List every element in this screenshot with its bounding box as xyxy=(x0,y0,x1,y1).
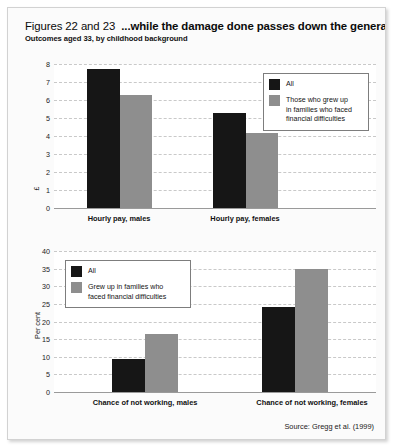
lower-y-ticks: 40 35 30 25 20 15 10 5 0 xyxy=(28,244,50,392)
chart-hourly-pay: £ 8 7 6 5 4 3 2 1 0 xyxy=(8,56,386,236)
upper-legend-item-faced: Those who grew up in families who faced … xyxy=(269,95,362,125)
upper-ytick-5: 5 xyxy=(46,114,50,123)
lower-legend-item-faced: Grew up in families who faced financial … xyxy=(71,282,184,302)
upper-ytick-8: 8 xyxy=(46,60,50,69)
legend-swatch-all-icon xyxy=(71,266,82,277)
figure-number: Figures 22 and 23 xyxy=(25,20,115,32)
upper-ytick-4: 4 xyxy=(46,132,50,141)
lower-ytick-5: 5 xyxy=(46,370,50,379)
upper-category-label-females: Hourly pay, females xyxy=(210,214,279,224)
legend-swatch-faced-icon xyxy=(269,95,280,106)
lower-legend-label-faced: Grew up in families who faced financial … xyxy=(88,282,166,302)
bar-not-working-males-all xyxy=(112,359,145,393)
bar-hourly-pay-females-all xyxy=(213,113,246,208)
upper-y-ticks: 8 7 6 5 4 3 2 1 0 xyxy=(28,56,50,208)
upper-category-label-males: Hourly pay, males xyxy=(88,214,151,224)
figure-subtitle: Outcomes aged 33, by childhood backgroun… xyxy=(25,34,375,43)
lower-category-label-males: Chance of not working, males xyxy=(93,398,198,408)
page-title: Figures 22 and 23 ...while the damage do… xyxy=(25,20,375,32)
upper-ytick-0: 0 xyxy=(46,204,50,213)
lower-legend-label-all: All xyxy=(88,266,96,277)
upper-legend: All Those who grew up in families who fa… xyxy=(263,73,369,131)
upper-legend-label-faced: Those who grew up in families who faced … xyxy=(286,95,352,125)
upper-ytick-2: 2 xyxy=(46,168,50,177)
bar-not-working-females-faced xyxy=(295,269,328,392)
lower-gridline-40 xyxy=(54,251,376,252)
lower-ytick-20: 20 xyxy=(42,317,50,326)
lower-ytick-35: 35 xyxy=(42,264,50,273)
source-note: Source: Gregg et al. (1999) xyxy=(284,422,374,431)
lower-ytick-10: 10 xyxy=(42,352,50,361)
chart-chance-not-working: Per cent 40 35 30 25 20 15 10 5 0 xyxy=(8,244,386,434)
upper-legend-label-all: All xyxy=(286,79,294,90)
bar-hourly-pay-males-faced xyxy=(120,95,152,208)
figure-card: Figures 22 and 23 ...while the damage do… xyxy=(7,7,386,440)
lower-ytick-15: 15 xyxy=(42,335,50,344)
lower-plot-area: All Grew up in families who faced financ… xyxy=(54,251,376,393)
bar-not-working-males-faced xyxy=(145,334,178,392)
legend-swatch-all-icon xyxy=(269,79,280,90)
figure-header: Figures 22 and 23 ...while the damage do… xyxy=(25,20,375,43)
upper-ytick-3: 3 xyxy=(46,150,50,159)
lower-legend: All Grew up in families who faced financ… xyxy=(65,260,191,308)
lower-ytick-25: 25 xyxy=(42,299,50,308)
lower-legend-item-all: All xyxy=(71,266,184,277)
lower-ytick-0: 0 xyxy=(46,388,50,397)
upper-ytick-6: 6 xyxy=(46,96,50,105)
upper-ytick-1: 1 xyxy=(46,186,50,195)
figure-title: ...while the damage done passes down the… xyxy=(121,20,386,32)
lower-ytick-40: 40 xyxy=(42,247,50,256)
upper-legend-item-all: All xyxy=(269,79,362,90)
bar-hourly-pay-females-faced xyxy=(246,133,278,208)
upper-gridline-8 xyxy=(54,64,376,65)
upper-plot-area: All Those who grew up in families who fa… xyxy=(54,64,376,209)
lower-ytick-30: 30 xyxy=(42,282,50,291)
bar-not-working-females-all xyxy=(262,307,295,392)
bar-hourly-pay-males-all xyxy=(87,69,120,208)
lower-category-label-females: Chance of not working, females xyxy=(256,398,367,408)
upper-ytick-7: 7 xyxy=(46,78,50,87)
legend-swatch-faced-icon xyxy=(71,282,82,293)
